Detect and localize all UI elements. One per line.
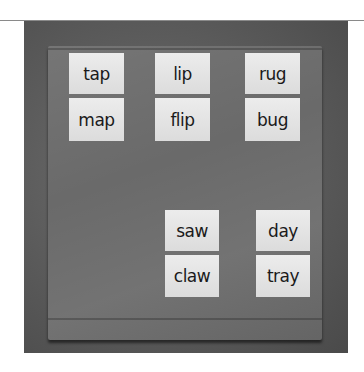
word-card: lip: [155, 53, 210, 94]
word-card: tray: [256, 255, 310, 297]
word-card: claw: [165, 255, 219, 297]
word-card: flip: [155, 98, 210, 141]
word-card: saw: [165, 210, 219, 251]
word-card: tap: [69, 53, 124, 94]
pocket-line: [48, 318, 322, 320]
word-card: rug: [245, 53, 300, 94]
pocket-chart: tap map lip flip rug bug saw claw day tr…: [48, 46, 322, 340]
word-card: day: [256, 210, 310, 251]
photo: tap map lip flip rug bug saw claw day tr…: [24, 21, 348, 353]
word-card: bug: [245, 98, 300, 141]
word-card: map: [69, 98, 124, 141]
pocket-line: [48, 48, 322, 50]
